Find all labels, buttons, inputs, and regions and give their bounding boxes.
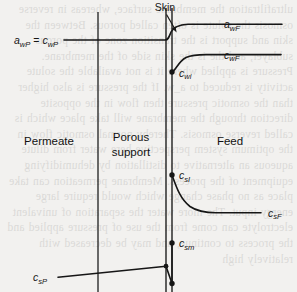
feed-solute-conc-sub: sF [273,212,282,221]
skin-label: Skin [155,1,176,13]
permeate-water-equals: = [30,34,42,46]
permeate-water-sub2: wP [48,40,59,49]
interface-solute-conc-sub: sI [184,175,191,184]
marker-c-sp-skin [164,264,169,269]
region-label-feed: Feed [217,135,243,147]
permeate-solute-conc-label: csP [33,271,48,286]
feed-solute-conc-label: csF [268,207,282,222]
membrane-profile-figure: ultrafiltration the membrane surface, wh… [0,0,297,292]
interface-water-conc-label: cwi [179,67,192,82]
feed-water-activity-label: awF [224,18,240,33]
profile-svg: Skin awP = cwP awF cwF cwi csI csF csm [0,0,297,292]
region-label-porous-support-line1: Porous [113,131,150,143]
marker-c-wi [169,69,174,74]
permeate-water-label: awP = cwP [14,34,59,49]
permeate-solute-conc-sub: sP [38,277,48,286]
membrane-solute-conc-label: csm [179,237,194,252]
feed-water-conc-label: cwF [224,49,240,64]
permeate-solute-concentration-curve [58,266,172,283]
interface-solute-conc-label: csI [179,169,191,184]
interface-water-conc-sub: wi [184,72,191,81]
region-label-permeate: Permeate [24,135,74,147]
feed-water-activity-sub: wF [230,24,240,33]
membrane-solute-conc-sub: sm [184,243,194,252]
marker-c-si [169,172,174,177]
feed-water-conc-sub: wF [229,54,239,63]
region-label-porous-support-line2: support [112,146,151,158]
